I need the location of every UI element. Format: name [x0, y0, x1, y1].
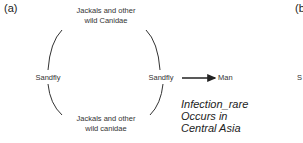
arc-bottom-left	[48, 84, 62, 115]
node-sandfly-left: Sandfly	[30, 73, 66, 83]
panel-b-partial-text: S	[297, 73, 302, 83]
node-jackals-top: Jackals and other wild Canidae	[66, 6, 146, 25]
infection-note: Infection_rare Occurs in Central Asia	[181, 98, 248, 134]
node-jackals-bottom: Jackals and other wild canidae	[64, 114, 148, 133]
note-line3: Central Asia	[181, 122, 248, 134]
node-man: Man	[218, 73, 233, 83]
node-sandfly-right: Sandfly	[143, 73, 179, 83]
note-line2: Occurs in	[181, 110, 248, 122]
arc-top-right	[146, 30, 160, 70]
node-jackals-top-line2: wild Canidae	[66, 16, 146, 26]
note-line1: Infection_rare	[181, 98, 248, 110]
arc-bottom-right	[150, 84, 163, 115]
node-jackals-bottom-line2: wild canidae	[64, 124, 148, 134]
node-jackals-top-line1: Jackals and other	[66, 6, 146, 16]
node-jackals-bottom-line1: Jackals and other	[64, 114, 148, 124]
cycle-arcs	[0, 0, 303, 143]
arc-top-left	[48, 30, 62, 70]
